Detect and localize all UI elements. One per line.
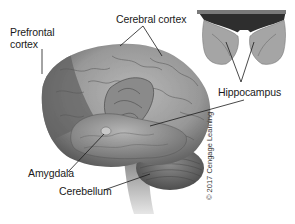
label-hippocampus: Hippocampus [218,86,281,98]
label-cerebellum: Cerebellum [59,185,112,197]
label-amygdala: Amygdala [28,167,74,179]
cerebrum-shape [30,40,210,167]
brain-diagram: Prefrontal cortex Cerebral cortex Hippoc… [0,0,295,224]
copyright-credit: © 2017 Cengage Learning [205,112,214,200]
hippocampus-inset [197,10,286,64]
label-prefrontal-line2: cortex [10,38,55,50]
label-prefrontal-line1: Prefrontal [10,26,55,38]
amygdala-spot [101,127,111,135]
label-prefrontal-cortex: Prefrontal cortex [10,26,55,50]
label-cerebral-cortex: Cerebral cortex [116,13,186,25]
